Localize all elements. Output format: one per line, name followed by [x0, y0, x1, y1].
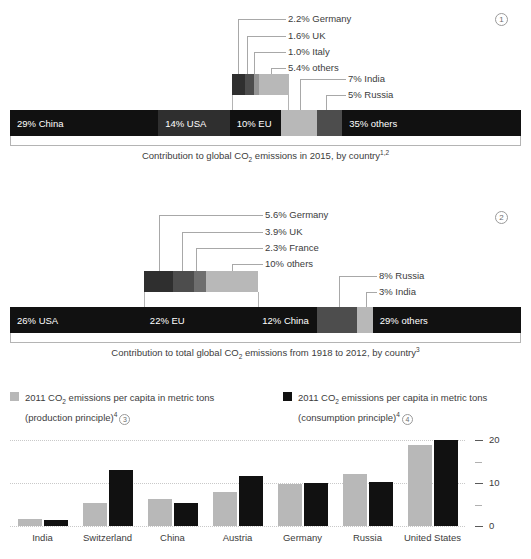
- callout-p2-uk: 3.9% UK: [265, 226, 303, 237]
- breakout-seg-germany: [232, 74, 245, 95]
- leader-p1-india-h: [300, 79, 346, 80]
- callout-p2-france: 2.3% France: [265, 242, 319, 253]
- legend-production-sup: 4: [114, 411, 118, 418]
- y-tick-0: [475, 526, 483, 527]
- x-label-china: China: [140, 532, 205, 543]
- leader-p2-france-h: [196, 248, 263, 249]
- x-label-germany: Germany: [270, 532, 335, 543]
- bar1-label-eu: 10% EU: [230, 118, 272, 129]
- bar2-seg-india: [357, 307, 372, 333]
- panel-2-caption-prefix: Contribution to total global CO: [111, 347, 238, 358]
- bar2-seg-china: 12% China: [255, 307, 316, 333]
- callout-p1-uk: 1.6% UK: [288, 30, 326, 41]
- y-tick-5: [475, 505, 482, 506]
- y-tick-label-10: 10: [489, 477, 500, 488]
- legend-production-rest: emissions per capita in metric tons: [66, 392, 214, 403]
- panel-1-bracket: [10, 136, 521, 146]
- leader-p1-germany-h: [238, 19, 286, 20]
- x-label-switzerland: Switzerland: [75, 532, 140, 543]
- legend-production-index: 3: [119, 414, 130, 425]
- bar2-label-china: 12% China: [255, 315, 308, 326]
- breakout2-seg-uk: [173, 271, 193, 292]
- bar1-label-china: 29% China: [10, 118, 63, 129]
- callout-p2-germany: 5.6% Germany: [265, 209, 328, 220]
- bar2-seg-eu: 22% EU: [143, 307, 255, 333]
- panel-2-bracket: [10, 333, 521, 343]
- panel-2-caption-sup: 3: [416, 346, 420, 353]
- legend-consumption-line2: (consumption principle): [298, 412, 396, 423]
- bar2-label-others: 29% others: [373, 315, 428, 326]
- legend-production-line2: (production principle): [25, 412, 114, 423]
- leader-p1-india-v: [300, 79, 301, 110]
- panel-1-caption-mid: emissions in 2015, by country: [252, 150, 380, 161]
- legend-swatch-production: [10, 392, 19, 401]
- panel-1-breakout-connector: [232, 95, 289, 110]
- panel-2-caption-mid: emissions from 1918 to 2012, by country: [242, 347, 416, 358]
- callout-p2-india: 3% India: [379, 286, 416, 297]
- panel-1-caption-prefix: Contribution to global CO: [142, 150, 249, 161]
- legend-swatch-consumption: [283, 392, 292, 401]
- leader-p2-russia-v: [339, 276, 340, 307]
- panel-1-eu-breakout-bar: [232, 74, 289, 95]
- bar1-seg-russia: [317, 110, 343, 136]
- leader-p2-india-h: [366, 292, 377, 293]
- bar2-label-usa: 26% USA: [10, 315, 58, 326]
- leader-p2-others-h: [232, 264, 263, 265]
- legend-item-consumption: 2011 CO2 emissions per capita in metric …: [283, 391, 528, 425]
- y-tick-15: [475, 462, 482, 463]
- leader-p1-italy-v: [254, 52, 255, 74]
- leader-p1-italy-h: [254, 52, 286, 53]
- leader-p1-uk-h: [247, 36, 286, 37]
- legend-text-consumption: 2011 CO2 emissions per capita in metric …: [298, 391, 487, 425]
- panel-2-stacked-bar: 26% USA 22% EU 12% China 29% others: [10, 307, 521, 333]
- bar1-seg-others: 35% others: [342, 110, 521, 136]
- bar1-seg-china: 29% China: [10, 110, 158, 136]
- breakout-seg-others: [259, 74, 289, 95]
- x-label-austria: Austria: [205, 532, 270, 543]
- bar1-seg-india: [281, 110, 317, 136]
- y-tick-10: [475, 483, 483, 484]
- x-label-russia: Russia: [335, 532, 400, 543]
- leader-p2-germany-h: [159, 215, 263, 216]
- y-tick-20: [475, 440, 483, 441]
- bar2-label-eu: 22% EU: [143, 315, 185, 326]
- panel-1-caption: Contribution to global CO2 emissions in …: [0, 149, 531, 163]
- leader-p1-uk-v: [247, 36, 248, 74]
- callout-p2-others: 10% others: [265, 258, 313, 269]
- legend-item-production: 2011 CO2 emissions per capita in metric …: [10, 391, 250, 425]
- leader-p2-russia-h: [339, 276, 377, 277]
- legend-consumption-rest: emissions per capita in metric tons: [339, 392, 487, 403]
- callout-p1-germany: 2.2% Germany: [288, 13, 351, 24]
- breakout-seg-uk: [245, 74, 254, 95]
- bar1-seg-eu: 10% EU: [230, 110, 281, 136]
- bar1-seg-usa: 14% USA: [158, 110, 230, 136]
- panel-2-index-badge: 2: [495, 211, 508, 224]
- breakout2-seg-france: [194, 271, 206, 292]
- bar2-seg-others: 29% others: [373, 307, 521, 333]
- leader-p1-others-h: [271, 68, 286, 69]
- bar1-label-usa: 14% USA: [158, 118, 206, 129]
- leader-p2-india-v: [366, 292, 367, 307]
- legend-consumption-index: 4: [402, 414, 413, 425]
- legend-consumption-sup: 4: [396, 411, 400, 418]
- bar2-seg-russia: [317, 307, 358, 333]
- leader-p2-others-v: [232, 264, 233, 271]
- callout-p1-italy: 1.0% Italy: [288, 46, 330, 57]
- leader-p2-germany-v: [159, 215, 160, 271]
- x-label-india: India: [10, 532, 75, 543]
- chart-y-axis: 01020: [0, 436, 531, 536]
- callout-p2-russia: 8% Russia: [379, 270, 424, 281]
- leader-p1-russia-v: [326, 95, 327, 110]
- leader-p2-uk-v: [182, 232, 183, 271]
- legend-text-production: 2011 CO2 emissions per capita in metric …: [25, 391, 214, 425]
- panel-2-index-number: 2: [495, 211, 508, 224]
- callout-p1-india: 7% India: [348, 73, 385, 84]
- panel-1-stacked-bar: 29% China 14% USA 10% EU 35% others: [10, 110, 521, 136]
- leader-p1-germany-v: [238, 19, 239, 74]
- leader-p2-france-v: [196, 248, 197, 271]
- bar2-seg-usa: 26% USA: [10, 307, 143, 333]
- panel-1-caption-sup: 1,2: [380, 149, 389, 156]
- x-label-united-states: United States: [400, 532, 465, 543]
- panel-2-breakout-connector: [144, 292, 259, 307]
- infographic-root: 1 2.2% Germany 1.6% UK 1.0% Italy 5.4% o…: [0, 0, 531, 559]
